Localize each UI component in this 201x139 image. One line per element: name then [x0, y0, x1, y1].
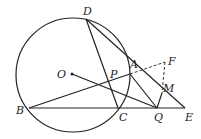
geometry-diagram: ODAPBCQEFM [0, 0, 201, 139]
point-label-a: A [129, 58, 138, 71]
point-label-m: M [162, 82, 175, 95]
segment-DC [86, 19, 118, 108]
point-label-o: O [57, 68, 66, 81]
point-label-b: B [15, 104, 24, 117]
point-label-q: Q [154, 111, 163, 124]
point-label-d: D [82, 5, 92, 18]
point-label-p: P [109, 68, 118, 81]
point-label-c: C [119, 111, 128, 124]
center-dot-o [71, 73, 74, 76]
segment-QM [157, 93, 162, 108]
diagram-canvas: ODAPBCQEFM [0, 0, 201, 139]
point-label-f: F [167, 55, 176, 68]
point-label-e: E [184, 111, 193, 124]
